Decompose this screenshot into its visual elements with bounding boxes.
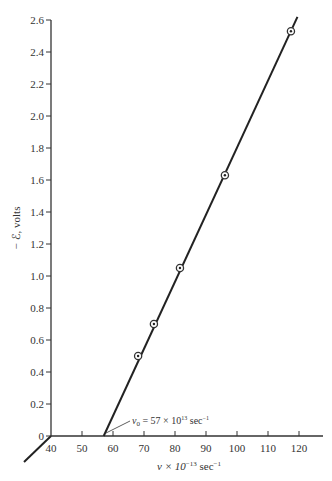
- x-tick-label: 100: [229, 442, 246, 454]
- annotation-threshold: ν0 = 57 × 1013 sec−1: [132, 415, 209, 428]
- fit-line-path: [104, 17, 298, 436]
- y-tick-label: 1.6: [30, 174, 44, 186]
- x-tick-label: 60: [108, 442, 120, 454]
- y-tick-label: 2.2: [30, 78, 44, 90]
- chart-canvas: 00.20.40.60.81.01.21.41.61.82.02.22.42.6…: [0, 0, 332, 481]
- x-tick-label: 90: [201, 442, 213, 454]
- y-tick-label: 2.0: [30, 110, 44, 122]
- y-tick-label: 0.2: [30, 398, 44, 410]
- x-tick-label: 110: [260, 442, 277, 454]
- y-tick-label: 1.0: [30, 270, 44, 282]
- y-tick-label: 0.8: [30, 302, 44, 314]
- x-tick-label: 120: [291, 442, 308, 454]
- y-ticks: 00.20.40.60.81.01.21.41.61.82.02.22.42.6: [30, 14, 51, 442]
- x-tick-label: 40: [46, 442, 58, 454]
- y-axis-label: − ℰ, volts: [10, 207, 22, 250]
- y-tick-label: 1.2: [30, 238, 44, 250]
- x-tick-label: 70: [139, 442, 151, 454]
- y-tick-label: 1.4: [30, 206, 44, 218]
- y-tick-label: 0.4: [30, 366, 44, 378]
- x-tick-label: 50: [77, 442, 89, 454]
- y-tick-label: 0.6: [30, 334, 44, 346]
- data-point-center: [290, 30, 292, 32]
- x-axis-label: ν × 10−13 sec−1: [157, 460, 222, 472]
- data-point-center: [137, 355, 139, 357]
- data-point-center: [224, 174, 226, 176]
- axes: [24, 20, 323, 462]
- y-tick-label: 0: [39, 430, 45, 442]
- y-tick-label: 1.8: [30, 142, 44, 154]
- x-tick-label: 80: [170, 442, 182, 454]
- data-point-center: [179, 267, 181, 269]
- x-ticks: 405060708090100110120: [46, 431, 308, 454]
- y-tick-label: 2.4: [30, 46, 44, 58]
- fit-line: [104, 17, 298, 436]
- data-point-center: [153, 323, 155, 325]
- y-tick-label: 2.6: [30, 14, 44, 26]
